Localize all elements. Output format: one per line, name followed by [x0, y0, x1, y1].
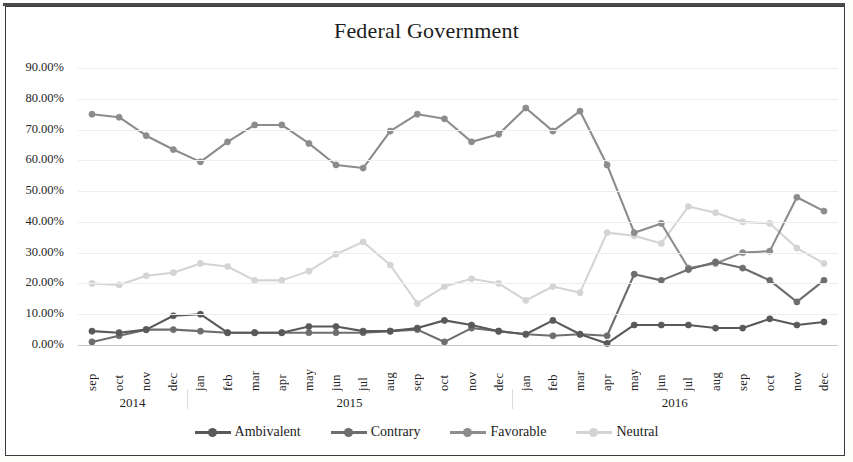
data-point [631, 322, 637, 328]
data-point [360, 328, 366, 334]
legend-item-label: Ambivalent [235, 424, 301, 440]
x-axis-tick-label: nov [139, 347, 153, 391]
legend-item-label: Favorable [490, 424, 546, 440]
x-axis-tick-label: nov [465, 347, 479, 391]
data-point [252, 122, 258, 128]
legend-marker-icon [195, 426, 231, 438]
data-point [333, 330, 339, 336]
x-axis-tick-label: aug [709, 347, 723, 391]
data-point [306, 330, 312, 336]
gridline [78, 191, 838, 192]
x-axis-tick-label: jan [519, 347, 533, 391]
x-axis-labels: sepoctnovdecjanfebmaraprmayjunjulaugsepo… [78, 347, 838, 392]
x-axis-tick-label: may [302, 347, 316, 391]
data-point [468, 276, 474, 282]
y-axis-tick-label: 80.00% [0, 91, 64, 106]
data-point [821, 260, 827, 266]
chart-legend: AmbivalentContraryFavorableNeutral [0, 424, 853, 440]
data-point [685, 322, 691, 328]
data-point [333, 323, 339, 329]
data-point [685, 266, 691, 272]
x-axis-line [78, 345, 838, 346]
data-point [740, 265, 746, 271]
data-point [143, 273, 149, 279]
data-point [468, 322, 474, 328]
x-axis-year-label: 2014 [78, 392, 186, 414]
data-point [414, 111, 420, 117]
legend-item-neutral[interactable]: Neutral [576, 424, 658, 440]
data-point [631, 230, 637, 236]
data-point [523, 331, 529, 337]
data-point [360, 165, 366, 171]
data-point [631, 271, 637, 277]
data-point [604, 162, 610, 168]
data-point [306, 140, 312, 146]
data-point [279, 330, 285, 336]
data-point [712, 210, 718, 216]
data-point [306, 268, 312, 274]
x-axis-tick-label: may [627, 347, 641, 391]
data-point [577, 331, 583, 337]
y-axis-tick-label: 0.00% [0, 337, 64, 352]
gridline [78, 253, 838, 254]
x-axis-tick-label: aug [383, 347, 397, 391]
data-point [794, 245, 800, 251]
data-point [441, 317, 447, 323]
legend-item-label: Contrary [371, 424, 421, 440]
data-point [441, 116, 447, 122]
data-point [360, 239, 366, 245]
y-axis-tick-label: 60.00% [0, 152, 64, 167]
x-axis-tick-label: sep [85, 347, 99, 391]
legend-item-contrary[interactable]: Contrary [331, 424, 421, 440]
data-point [712, 325, 718, 331]
y-axis-tick-label: 10.00% [0, 306, 64, 321]
data-point [712, 259, 718, 265]
data-point [197, 260, 203, 266]
y-axis: 90.00%80.00%70.00%60.00%50.00%40.00%30.0… [0, 68, 78, 345]
data-point [387, 262, 393, 268]
data-point [658, 240, 664, 246]
x-axis-tick-label: oct [112, 347, 126, 391]
gridline [78, 160, 838, 161]
x-axis-tick-label: oct [763, 347, 777, 391]
data-point [550, 317, 556, 323]
data-point [604, 333, 610, 339]
data-point [170, 327, 176, 333]
x-axis-year-groups: 201420152016 [78, 392, 838, 416]
x-axis-tick-label: apr [275, 347, 289, 391]
x-axis-tick-label: jul [356, 347, 370, 391]
legend-item-ambivalent[interactable]: Ambivalent [195, 424, 301, 440]
x-axis-tick-label: nov [790, 347, 804, 391]
gridline [78, 130, 838, 131]
x-axis-tick-label: dec [492, 347, 506, 391]
data-point [468, 139, 474, 145]
gridline [78, 314, 838, 315]
legend-item-label: Neutral [616, 424, 658, 440]
data-point [116, 114, 122, 120]
y-axis-tick-label: 90.00% [0, 60, 64, 75]
data-point [523, 297, 529, 303]
data-point [279, 122, 285, 128]
data-point [197, 328, 203, 334]
data-point [333, 162, 339, 168]
data-point [170, 146, 176, 152]
plot-area [78, 68, 838, 345]
series-neutral [89, 203, 827, 306]
series-line [92, 108, 824, 268]
gridline [78, 283, 838, 284]
data-point [550, 333, 556, 339]
legend-item-favorable[interactable]: Favorable [450, 424, 546, 440]
data-point [89, 328, 95, 334]
data-point [685, 203, 691, 209]
y-axis-tick-label: 30.00% [0, 245, 64, 260]
x-axis-tick-label: sep [410, 347, 424, 391]
legend-marker-icon [331, 426, 367, 438]
x-axis-year-label: 2015 [187, 392, 512, 414]
chart-title: Federal Government [0, 18, 853, 44]
year-group-separator [187, 389, 188, 409]
data-point [387, 328, 393, 334]
data-point [414, 325, 420, 331]
data-point [658, 322, 664, 328]
data-point [306, 323, 312, 329]
data-point [89, 111, 95, 117]
